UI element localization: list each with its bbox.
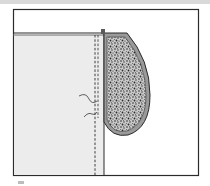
- fold-tab: [101, 29, 105, 34]
- sewing-diagram: [0, 0, 210, 186]
- corner-mark: [18, 181, 24, 184]
- fabric-panel: [14, 35, 104, 175]
